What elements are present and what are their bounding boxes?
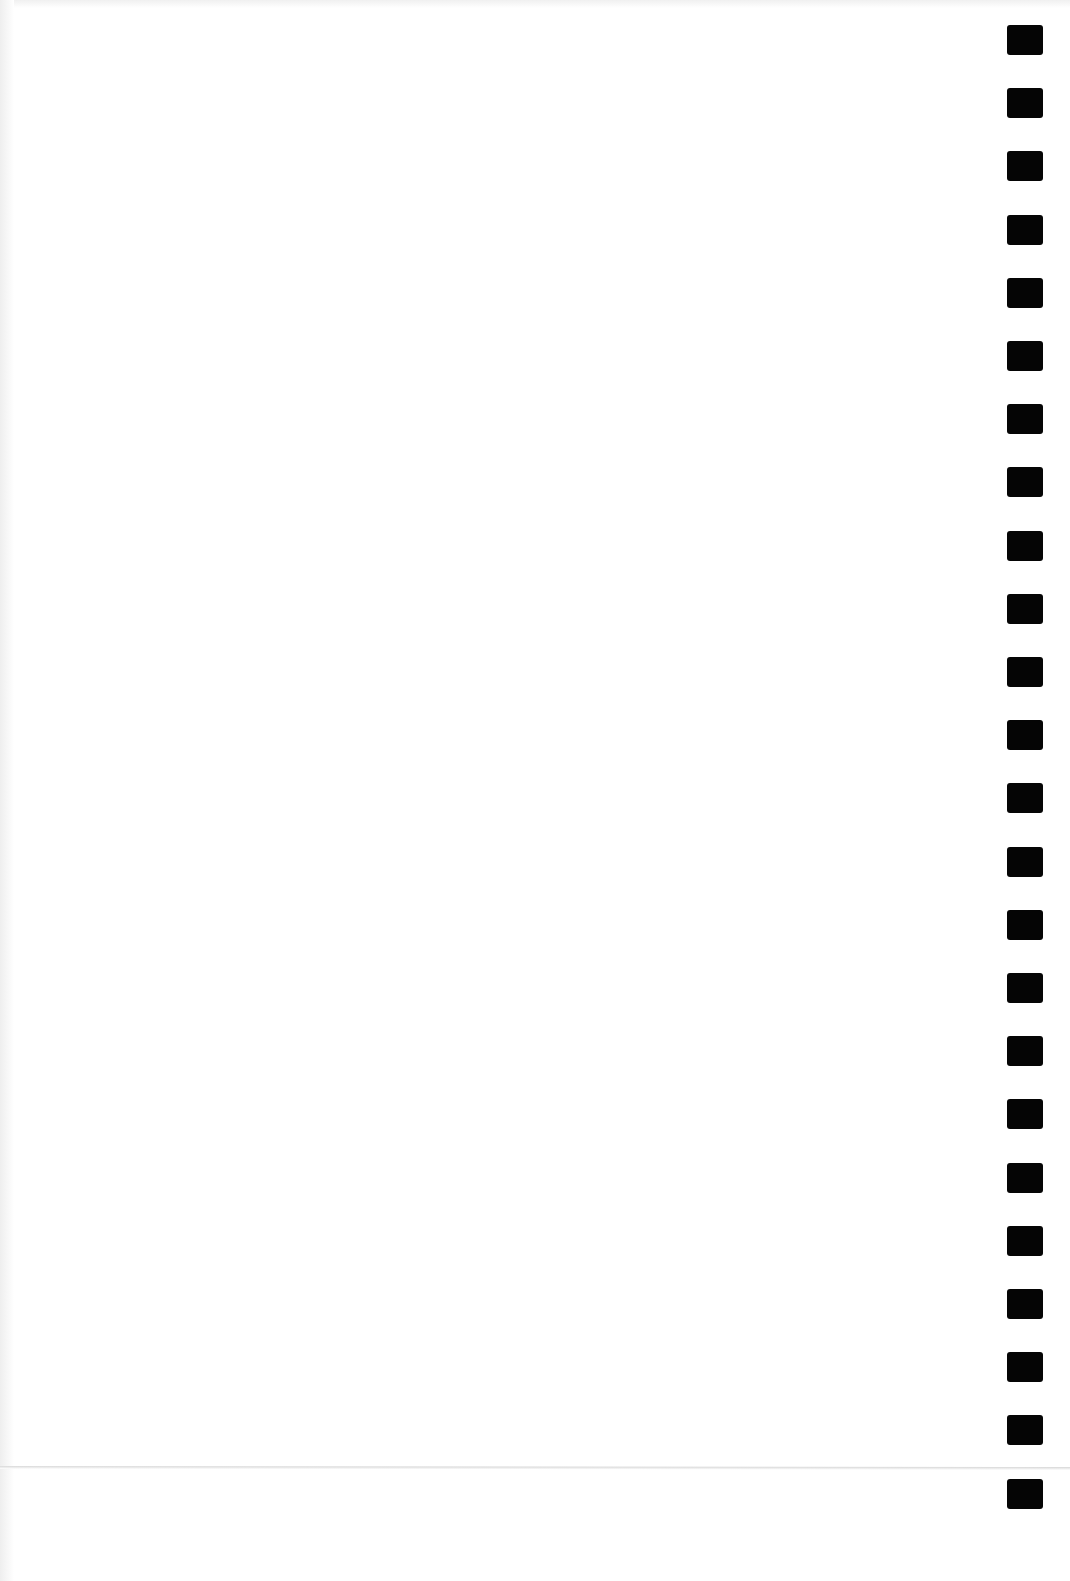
registration-mark <box>1007 720 1043 750</box>
fold-line <box>0 1466 1070 1470</box>
registration-mark <box>1007 783 1043 813</box>
registration-mark <box>1007 594 1043 624</box>
registration-marks-column <box>1007 0 1043 1581</box>
registration-mark <box>1007 973 1043 1003</box>
registration-mark <box>1007 341 1043 371</box>
registration-mark <box>1007 1036 1043 1066</box>
registration-mark <box>1007 1479 1043 1509</box>
registration-mark <box>1007 467 1043 497</box>
registration-mark <box>1007 151 1043 181</box>
scan-left-shadow <box>0 0 14 1581</box>
registration-mark <box>1007 404 1043 434</box>
scan-top-shadow <box>0 0 1070 8</box>
registration-mark <box>1007 1352 1043 1382</box>
registration-mark <box>1007 1163 1043 1193</box>
registration-mark <box>1007 1289 1043 1319</box>
registration-mark <box>1007 531 1043 561</box>
registration-mark <box>1007 910 1043 940</box>
registration-mark <box>1007 1099 1043 1129</box>
registration-mark <box>1007 88 1043 118</box>
registration-mark <box>1007 1226 1043 1256</box>
registration-mark <box>1007 847 1043 877</box>
registration-mark <box>1007 25 1043 55</box>
registration-mark <box>1007 215 1043 245</box>
registration-mark <box>1007 657 1043 687</box>
registration-mark <box>1007 1415 1043 1445</box>
registration-mark <box>1007 278 1043 308</box>
